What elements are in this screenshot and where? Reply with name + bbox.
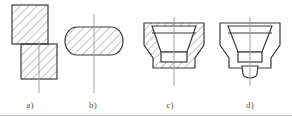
technical-figure: a) b) [0,0,292,116]
panel-c [135,0,213,100]
caption-d: d) [230,100,270,110]
caption-c: c) [150,100,190,110]
caption-b: b) [73,100,113,110]
bottom-divider [0,115,292,116]
panel-b-drawing [60,0,135,100]
upper-block [12,5,48,44]
panel-c-drawing [135,0,213,100]
caption-a: a) [10,100,50,110]
panel-d [212,0,292,100]
panel-d-drawing [212,0,292,100]
panel-b [60,0,135,100]
